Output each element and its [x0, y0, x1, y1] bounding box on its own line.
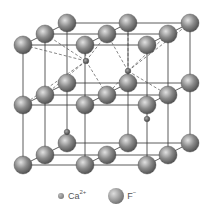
legend-f: F− — [86, 188, 136, 204]
f-ion-sphere — [58, 134, 76, 152]
f-ion-sphere — [14, 36, 32, 54]
fluorite-structure-diagram — [0, 0, 210, 215]
f-ion-sphere — [36, 25, 54, 43]
f-ion-sphere — [98, 146, 116, 164]
f-ion-sphere — [181, 134, 199, 152]
f-ion-icon — [108, 188, 124, 204]
f-ion-sphere — [119, 74, 137, 92]
ca-ion-sphere — [83, 58, 89, 64]
f-ion-sphere — [98, 25, 116, 43]
f-ion-sphere — [76, 36, 94, 54]
f-ion-sphere — [138, 36, 156, 54]
f-ion-sphere — [138, 96, 156, 114]
f-ion-sphere — [159, 146, 177, 164]
ca-label: Ca2+ — [68, 191, 86, 201]
ca-ion-sphere — [64, 129, 70, 135]
f-ion-sphere — [138, 156, 156, 174]
f-ion-sphere — [98, 86, 116, 104]
ca-ion-sphere — [125, 68, 131, 74]
f-ion-sphere — [36, 86, 54, 104]
f-ion-sphere — [14, 96, 32, 114]
f-ion-sphere — [76, 156, 94, 174]
f-ion-sphere — [119, 134, 137, 152]
f-ion-sphere — [181, 74, 199, 92]
ca-ion-sphere — [144, 116, 150, 122]
f-label: F− — [127, 191, 136, 201]
f-ion-sphere — [159, 25, 177, 43]
f-ion-sphere — [58, 14, 76, 32]
f-ion-sphere — [119, 14, 137, 32]
f-ion-sphere — [159, 86, 177, 104]
f-ion-sphere — [14, 156, 32, 174]
f-ion-sphere — [181, 14, 199, 32]
ca-ion-icon — [58, 193, 64, 199]
f-ion-sphere — [58, 74, 76, 92]
f-ion-sphere — [76, 96, 94, 114]
f-ion-sphere — [36, 146, 54, 164]
legend-ca: Ca2+ — [58, 191, 86, 201]
legend: Ca2+ F− — [58, 188, 136, 204]
ion-spheres — [14, 14, 199, 174]
